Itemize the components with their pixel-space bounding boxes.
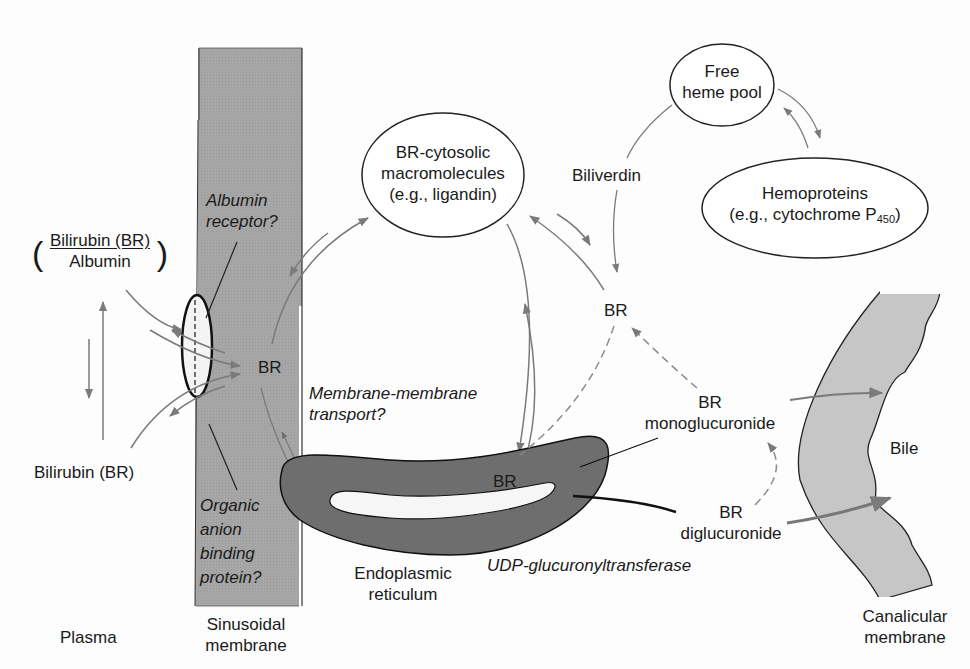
bile-label: Bile (890, 438, 918, 459)
transport-line1: Membrane-membrane (309, 383, 477, 404)
cytosolic-line2: macromolecules (372, 163, 514, 184)
organic-line1: Organic (200, 494, 261, 518)
organic-line4: protein? (200, 566, 261, 590)
endoplasmic-reticulum-label: Endoplasmic reticulum (348, 563, 458, 605)
canalicular-line1: Canalicular (850, 606, 960, 627)
udp-glucuronyltransferase-label: UDP-glucuronyltransferase (487, 555, 691, 576)
hemo-line1: Hemoproteins (708, 183, 922, 204)
free-bilirubin-label: Bilirubin (BR) (34, 462, 134, 483)
heme-line1: Free (670, 61, 774, 82)
plasma-label: Plasma (60, 627, 117, 648)
canalicular-membrane (798, 292, 940, 600)
br-albumin-complex-label: ( Bilirubin (BR) Albumin ) (30, 230, 170, 272)
complex-denominator: Albumin (30, 251, 170, 272)
di-line2: diglucuronide (666, 523, 796, 544)
bilirubin-pathway-diagram: ( Bilirubin (BR) Albumin ) Bilirubin (BR… (0, 0, 970, 669)
hemoproteins-label: Hemoproteins (e.g., cytochrome P450) (708, 183, 922, 230)
canalicular-line2: membrane (850, 627, 960, 648)
cytosol-br-label: BR (604, 300, 628, 321)
transport-line2: transport? (309, 404, 477, 425)
membrane-membrane-transport-label: Membrane-membrane transport? (309, 383, 477, 425)
organic-line2: anion (200, 518, 261, 542)
sinusoidal-line2: membrane (196, 635, 296, 656)
er-line2: reticulum (348, 584, 458, 605)
br-diglucuronide-label: BR diglucuronide (666, 502, 796, 544)
diagram-graphics (0, 0, 970, 669)
albumin-receptor-line2: receptor? (206, 211, 278, 232)
sinusoidal-br-label: BR (258, 357, 282, 378)
albumin-receptor-label: Albumin receptor? (206, 190, 278, 232)
di-line1: BR (666, 502, 796, 523)
albumin-receptor-line1: Albumin (206, 190, 278, 211)
sinusoidal-membrane (198, 48, 302, 306)
free-heme-pool-label: Free heme pool (670, 61, 774, 103)
complex-numerator: Bilirubin (BR) (30, 230, 170, 251)
canalicular-membrane-label: Canalicular membrane (850, 606, 960, 648)
biliverdin-label: Biliverdin (572, 165, 641, 186)
er-line1: Endoplasmic (348, 563, 458, 584)
sinusoidal-membrane-label: Sinusoidal membrane (196, 614, 296, 656)
mono-line2: monoglucuronide (630, 413, 790, 434)
cytosolic-line1: BR-cytosolic (372, 142, 514, 163)
mono-line1: BR (630, 392, 790, 413)
br-monoglucuronide-label: BR monoglucuronide (630, 392, 790, 434)
cytosolic-line3: (e.g., ligandin) (372, 184, 514, 205)
cytosolic-macromolecules-label: BR-cytosolic macromolecules (e.g., ligan… (372, 142, 514, 205)
organic-anion-binding-protein-label: Organic anion binding protein? (200, 494, 261, 590)
organic-line3: binding (200, 542, 261, 566)
heme-line2: heme pool (670, 82, 774, 103)
hemo-line2: (e.g., cytochrome P450) (708, 204, 922, 230)
er-br-label: BR (493, 471, 517, 492)
sinusoidal-line1: Sinusoidal (196, 614, 296, 635)
